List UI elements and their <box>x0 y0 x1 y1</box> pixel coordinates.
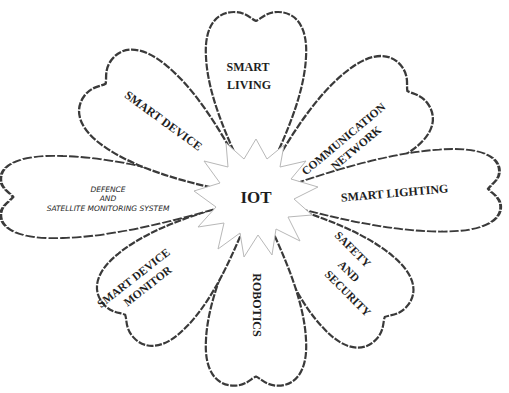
svg-text:SATELLITE MONITORING SYSTEM: SATELLITE MONITORING SYSTEM <box>47 204 170 213</box>
svg-text:ROBOTICS: ROBOTICS <box>250 273 264 337</box>
center-label: IOT <box>240 188 272 207</box>
svg-text:DEFENCE: DEFENCE <box>90 185 125 194</box>
svg-text:LIVING: LIVING <box>227 78 271 92</box>
svg-text:SMART: SMART <box>227 60 270 74</box>
iot-flower-diagram: IOT SMART LIVING COMMUNICATION NETWORK S… <box>0 0 509 393</box>
svg-text:AND: AND <box>99 194 117 203</box>
label-robotics: ROBOTICS <box>250 273 264 337</box>
